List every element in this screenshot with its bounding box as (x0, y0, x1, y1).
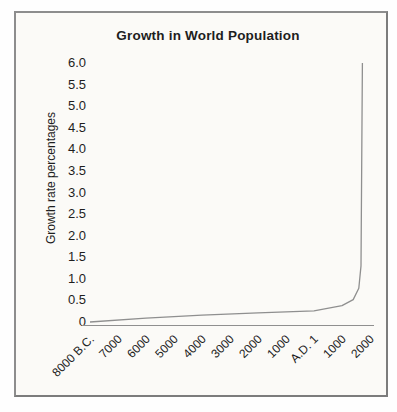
growth-rate-line (90, 63, 362, 322)
line-plot (16, 13, 386, 395)
chart-panel: Growth in World Population Growth rate p… (14, 11, 388, 397)
